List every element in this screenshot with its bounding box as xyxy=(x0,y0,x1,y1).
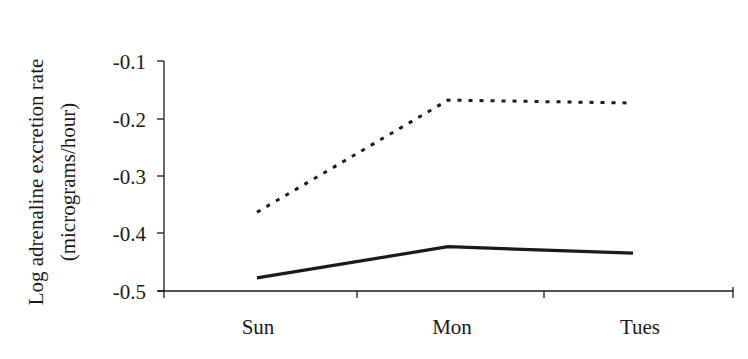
y-tick-label: -0.1 xyxy=(113,50,146,74)
x-tick-label-mon: Mon xyxy=(432,315,472,339)
y-tick-label: -0.5 xyxy=(113,280,146,304)
y-axis: -0.1 -0.2 -0.3 -0.4 -0.5 xyxy=(113,50,164,304)
y-axis-title-line2: (micrograms/hour) xyxy=(56,103,80,262)
y-tick-label: -0.3 xyxy=(113,165,146,189)
series-solid-line xyxy=(257,247,633,278)
y-axis-title: Log adrenaline excretion rate (microgram… xyxy=(24,59,80,306)
x-axis: Sun Mon Tues xyxy=(158,287,733,339)
series-dashed-line xyxy=(257,100,633,212)
line-chart: Log adrenaline excretion rate (microgram… xyxy=(0,0,748,359)
y-tick-label: -0.4 xyxy=(113,222,147,246)
y-axis-title-line1: Log adrenaline excretion rate xyxy=(24,59,48,306)
x-tick-label-tues: Tues xyxy=(620,315,660,339)
x-tick-label-sun: Sun xyxy=(242,315,275,339)
y-tick-label: -0.2 xyxy=(113,108,146,132)
